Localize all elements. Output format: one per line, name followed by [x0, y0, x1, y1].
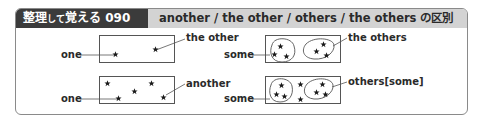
label-one: one: [61, 93, 82, 105]
label-another: another: [186, 78, 230, 90]
diagram-the-others: [252, 36, 347, 63]
label-some: some: [224, 93, 254, 105]
star-icon: [112, 51, 118, 57]
label-some: some: [224, 49, 254, 61]
diagram-the-other: [80, 36, 185, 63]
diagram-others: [252, 77, 347, 104]
label-one: one: [61, 49, 82, 61]
label-the-other: the other: [186, 32, 239, 44]
diagram-another: [80, 77, 185, 104]
label-the-others: the others: [348, 32, 407, 44]
label-others-some: others[some]: [348, 76, 424, 88]
